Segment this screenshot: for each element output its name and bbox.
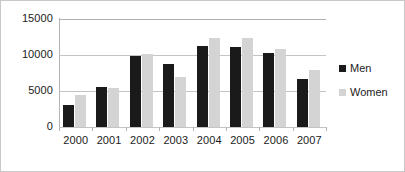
legend-label: Men (350, 63, 371, 74)
x-tick-label-2004: 2004 (193, 134, 226, 146)
legend-entry-women: Women (339, 87, 403, 98)
bar-women-2001 (108, 88, 119, 127)
x-tick-label-2007: 2007 (293, 134, 326, 146)
x-tick-label-2005: 2005 (226, 134, 259, 146)
bar-men-2000 (63, 105, 74, 127)
bar-group (59, 19, 92, 127)
bar-group (293, 19, 326, 127)
legend-label: Women (350, 87, 388, 98)
bar-women-2002 (142, 54, 153, 127)
x-tick-label-2002: 2002 (126, 134, 159, 146)
y-axis-tick-labels: 050001000015000 (1, 1, 53, 172)
bar-women-2004 (209, 38, 220, 127)
bar-men-2007 (297, 79, 308, 127)
y-tick-label-5000: 5000 (5, 85, 53, 96)
x-tick-2007 (293, 127, 294, 131)
bar-group (92, 19, 125, 127)
x-tick-label-2006: 2006 (259, 134, 292, 146)
legend-entry-men: Men (339, 63, 403, 74)
plot-area (59, 19, 326, 127)
bar-group (259, 19, 292, 127)
bar-group (159, 19, 192, 127)
bar-women-2000 (75, 95, 86, 127)
bar-men-2003 (163, 64, 174, 127)
x-tick-2006 (259, 127, 260, 131)
bar-women-2006 (275, 49, 286, 127)
x-tick-label-2000: 2000 (59, 134, 92, 146)
bar-women-2003 (175, 77, 186, 127)
bar-men-2001 (96, 87, 107, 127)
bar-group (226, 19, 259, 127)
x-tick-2002 (126, 127, 127, 131)
chart-legend: MenWomen (339, 63, 403, 111)
x-tick-2001 (92, 127, 93, 131)
legend-swatch-women-icon (339, 89, 346, 96)
x-tick-label-2001: 2001 (92, 134, 125, 146)
bar-men-2006 (263, 53, 274, 127)
bar-men-2004 (197, 46, 208, 127)
bar-group (193, 19, 226, 127)
bar-women-2007 (309, 70, 320, 127)
y-tick-label-15000: 15000 (5, 13, 53, 24)
x-tick-2005 (226, 127, 227, 131)
x-tick-label-2003: 2003 (159, 134, 192, 146)
x-tick-2004 (193, 127, 194, 131)
bar-group (126, 19, 159, 127)
x-tick-2003 (159, 127, 160, 131)
bar-men-2005 (230, 47, 241, 127)
bar-chart-figure: 050001000015000 200020012002200320042005… (0, 0, 405, 172)
x-axis-tick-labels: 20002001200220032004200520062007 (59, 134, 326, 154)
y-tick-label-10000: 10000 (5, 49, 53, 60)
bar-men-2002 (130, 56, 141, 127)
x-tick-end (326, 127, 327, 131)
x-tick-2000 (59, 127, 60, 131)
y-tick-label-0: 0 (5, 121, 53, 132)
legend-swatch-men-icon (339, 65, 346, 72)
bar-women-2005 (242, 38, 253, 127)
